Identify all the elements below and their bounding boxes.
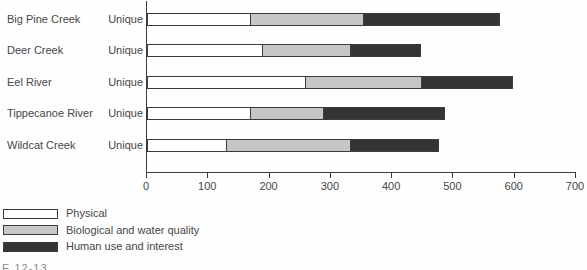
stacked-bar	[147, 107, 576, 120]
legend-label: Physical	[66, 208, 107, 219]
x-tick-mark	[575, 173, 576, 178]
x-tick-label: 300	[321, 180, 339, 192]
bar-segment-physical	[147, 13, 251, 26]
bar-segment-human	[350, 139, 439, 152]
x-axis: 0100200300400500600700	[146, 173, 575, 197]
bar-segment-physical	[147, 139, 227, 152]
plot-area	[146, 1, 576, 173]
legend-label: Human use and interest	[66, 241, 183, 252]
bar-segment-biological	[226, 139, 352, 152]
legend-item: Human use and interest	[3, 241, 183, 252]
legend-item: Biological and water quality	[3, 225, 199, 236]
x-tick-mark	[514, 173, 515, 178]
bar-segment-physical	[147, 107, 251, 120]
bar-segment-biological	[250, 13, 363, 26]
legend-swatch-human	[3, 242, 58, 252]
x-tick-label: 400	[382, 180, 400, 192]
x-tick-mark	[452, 173, 453, 178]
stacked-bar	[147, 44, 576, 57]
x-tick-label: 200	[259, 180, 277, 192]
category-label: Deer Creek	[7, 44, 63, 57]
stacked-bar	[147, 13, 576, 26]
bar-segment-human	[421, 76, 513, 89]
row-sublabel: Unique	[60, 44, 143, 57]
figure-root: Big Pine CreekUniqueDeer CreekUniqueEel …	[0, 0, 587, 270]
bar-segment-human	[323, 107, 446, 120]
row-sublabel: Unique	[60, 76, 143, 89]
bar-segment-physical	[147, 76, 306, 89]
x-tick-label: 0	[143, 180, 149, 192]
x-tick-label: 100	[198, 180, 216, 192]
legend-label: Biological and water quality	[66, 225, 199, 236]
bar-segment-human	[350, 44, 420, 57]
stacked-bar	[147, 76, 576, 89]
x-tick-mark	[391, 173, 392, 178]
bar-segment-biological	[305, 76, 421, 89]
x-tick-mark	[269, 173, 270, 178]
figure-caption-fragment: E 12-13	[2, 262, 48, 270]
bar-segment-biological	[262, 44, 351, 57]
row-sublabel: Unique	[60, 107, 143, 120]
legend-item: Physical	[3, 208, 107, 219]
x-tick-label: 700	[566, 180, 584, 192]
row-sublabel: Unique	[60, 139, 143, 152]
stacked-bar	[147, 139, 576, 152]
legend-swatch-physical	[3, 209, 58, 219]
x-tick-mark	[330, 173, 331, 178]
x-tick-mark	[207, 173, 208, 178]
x-tick-mark	[146, 173, 147, 178]
x-tick-label: 600	[505, 180, 523, 192]
category-label: Eel River	[7, 76, 52, 89]
x-tick-label: 500	[443, 180, 461, 192]
bar-segment-human	[363, 13, 501, 26]
bar-segment-physical	[147, 44, 263, 57]
bar-segment-biological	[250, 107, 324, 120]
legend-swatch-biological	[3, 225, 58, 235]
row-sublabel: Unique	[60, 13, 143, 26]
